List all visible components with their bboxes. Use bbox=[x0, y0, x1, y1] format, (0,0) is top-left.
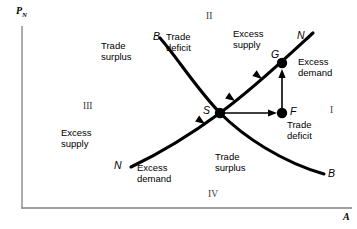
nn-curve-label-top: N bbox=[297, 30, 305, 41]
nn-curve bbox=[131, 33, 313, 167]
point-f-label: F bbox=[290, 106, 296, 117]
annotation-excess-demand-right: Excess demand bbox=[298, 57, 332, 78]
arrow-s-to-f bbox=[222, 109, 277, 116]
y-axis-label: PN bbox=[16, 6, 27, 21]
point-s-label: S bbox=[203, 105, 210, 116]
swan-diagram: PN A I II III IV B B N N S G F Trade sur… bbox=[0, 0, 357, 229]
quadrant-i-label: I bbox=[330, 105, 333, 116]
point-g-label: G bbox=[271, 49, 279, 60]
annotation-trade-deficit-right: Trade deficit bbox=[287, 120, 312, 141]
point-f-dot bbox=[277, 108, 287, 118]
nn-curve-label-bottom: N bbox=[114, 160, 122, 171]
annotation-excess-demand-lower-left: Excess demand bbox=[137, 163, 171, 184]
quadrant-iv-label: IV bbox=[208, 189, 218, 200]
quadrant-iii-label: III bbox=[83, 101, 93, 112]
arrow-f-to-g bbox=[278, 69, 285, 110]
quadrant-ii-label: II bbox=[206, 11, 212, 22]
annotation-excess-supply-upper: Excess supply bbox=[233, 29, 264, 50]
axes bbox=[21, 26, 352, 209]
point-s-dot bbox=[215, 108, 225, 118]
bb-curve-label-top: B bbox=[153, 31, 160, 42]
annotation-excess-supply-lower-left: Excess supply bbox=[61, 128, 92, 149]
bb-curve-label-bottom: B bbox=[328, 168, 335, 179]
x-axis-label: A bbox=[343, 212, 350, 223]
annotation-trade-surplus-upper-left: Trade surplus bbox=[101, 41, 132, 62]
annotation-trade-surplus-lower: Trade surplus bbox=[215, 152, 246, 173]
annotation-trade-deficit-upper: Trade deficit bbox=[166, 32, 191, 53]
